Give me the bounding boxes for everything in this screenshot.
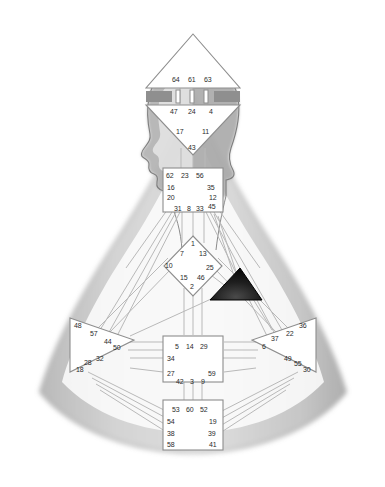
gate-37: 37 <box>271 335 278 342</box>
gate-25: 25 <box>206 264 213 271</box>
gate-45: 45 <box>208 203 215 210</box>
gate-16: 16 <box>167 184 174 191</box>
gate-24: 24 <box>188 108 195 115</box>
gate-4: 4 <box>209 108 213 115</box>
gate-63: 63 <box>204 76 211 83</box>
gate-47: 47 <box>170 108 177 115</box>
gate-7: 7 <box>180 250 184 257</box>
gate-38: 38 <box>167 430 174 437</box>
bodygraph-canvas: 64 61 63 47 24 4 17 11 43 62 23 56 16 35… <box>0 0 385 487</box>
gate-27: 27 <box>167 370 174 377</box>
gate-41: 41 <box>209 441 216 448</box>
gate-29: 29 <box>200 343 207 350</box>
gate-20: 20 <box>167 194 174 201</box>
gate-42: 42 <box>176 378 183 385</box>
gate-58: 58 <box>167 441 174 448</box>
gate-55: 55 <box>294 360 301 367</box>
gate-number-layer: 64 61 63 47 24 4 17 11 43 62 23 56 16 35… <box>0 0 385 487</box>
gate-35: 35 <box>207 184 214 191</box>
gate-49: 49 <box>284 355 291 362</box>
gate-12: 12 <box>209 194 216 201</box>
gate-19: 19 <box>209 418 216 425</box>
gate-17: 17 <box>176 128 183 135</box>
gate-1: 1 <box>191 240 195 247</box>
gate-54: 54 <box>167 418 174 425</box>
gate-39: 39 <box>208 430 215 437</box>
gate-11: 11 <box>202 128 209 135</box>
gate-34: 34 <box>167 355 174 362</box>
gate-28: 28 <box>84 359 91 366</box>
gate-43: 43 <box>188 144 195 151</box>
gate-59: 59 <box>208 370 215 377</box>
gate-60: 60 <box>186 406 193 413</box>
gate-9: 9 <box>201 378 205 385</box>
gate-32: 32 <box>96 355 103 362</box>
gate-53: 53 <box>172 406 179 413</box>
gate-61: 61 <box>188 76 195 83</box>
gate-31: 31 <box>174 205 181 212</box>
gate-10: 10 <box>165 262 172 269</box>
gate-44: 44 <box>104 338 111 345</box>
gate-14: 14 <box>186 343 193 350</box>
gate-30: 30 <box>303 366 310 373</box>
gate-2: 2 <box>190 283 194 290</box>
gate-6: 6 <box>262 343 266 350</box>
gate-33: 33 <box>196 205 203 212</box>
gate-52: 52 <box>200 406 207 413</box>
gate-56: 56 <box>196 172 203 179</box>
gate-50: 50 <box>113 344 120 351</box>
gate-36: 36 <box>299 322 306 329</box>
gate-23: 23 <box>181 172 188 179</box>
gate-62: 62 <box>166 172 173 179</box>
gate-13: 13 <box>199 250 206 257</box>
gate-46: 46 <box>197 274 204 281</box>
gate-57: 57 <box>90 330 97 337</box>
gate-22: 22 <box>286 330 293 337</box>
gate-64: 64 <box>172 76 179 83</box>
gate-48: 48 <box>74 322 81 329</box>
gate-18: 18 <box>76 366 83 373</box>
gate-8: 8 <box>187 205 191 212</box>
gate-15: 15 <box>180 274 187 281</box>
gate-3: 3 <box>190 378 194 385</box>
gate-5: 5 <box>175 343 179 350</box>
